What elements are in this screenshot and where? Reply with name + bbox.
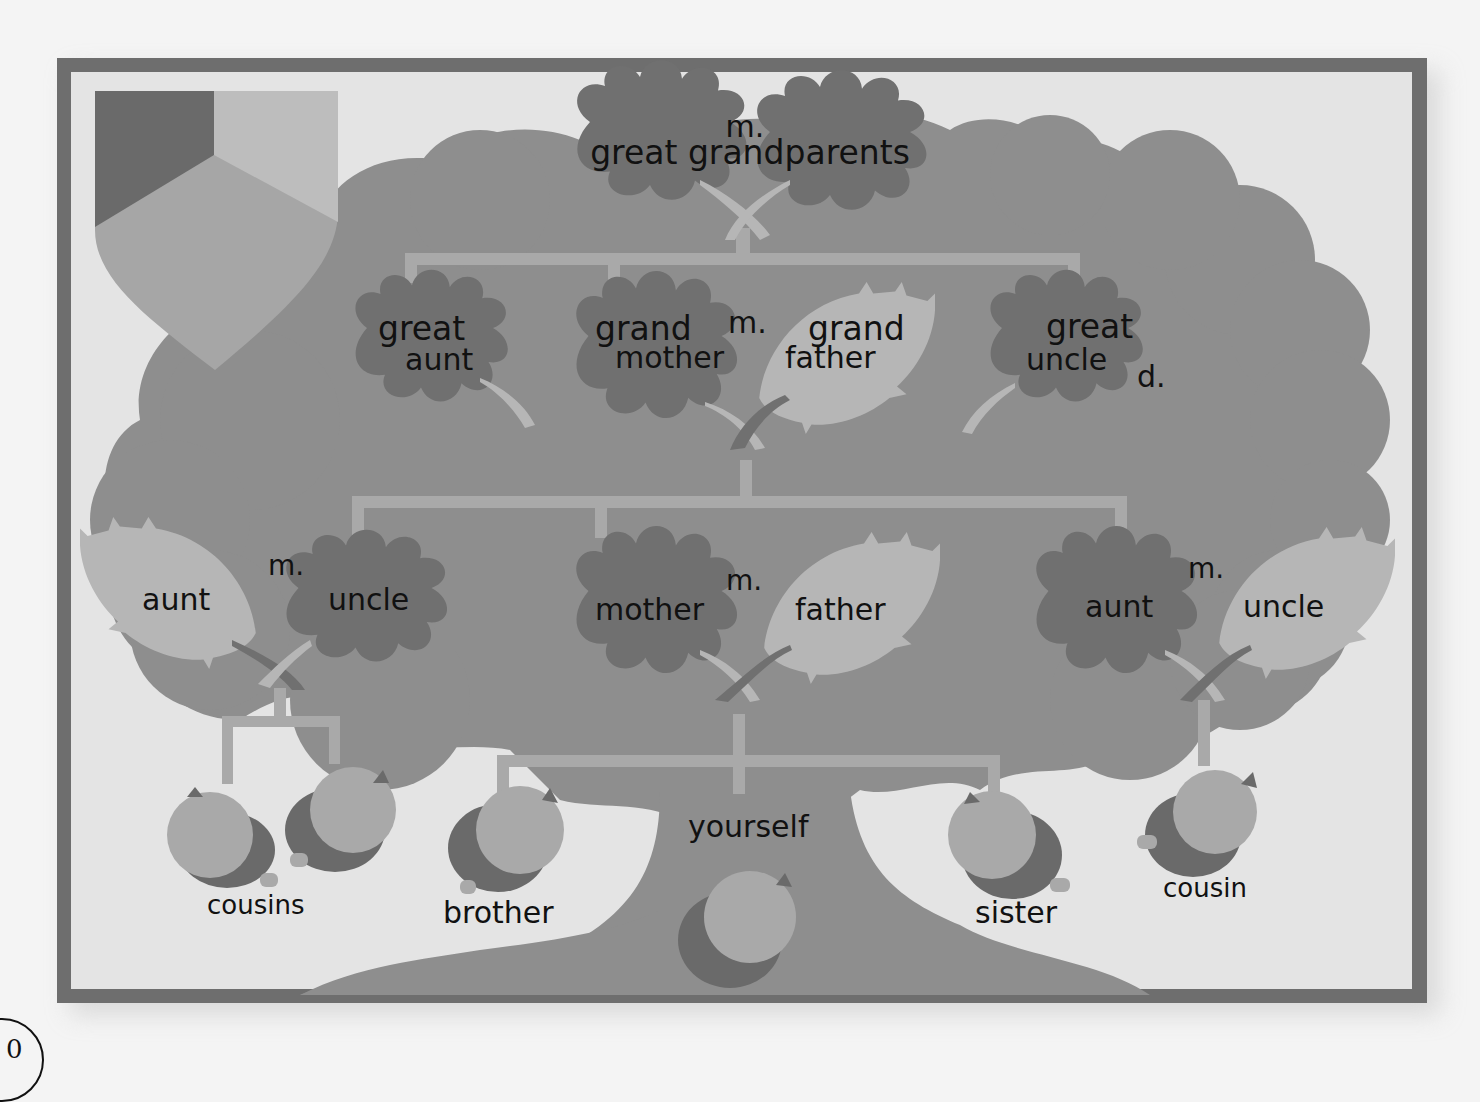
label-mother: mother	[595, 595, 704, 625]
label-great-uncle-line1: great	[1046, 310, 1133, 343]
label-great-uncle-line2: uncle	[1026, 345, 1107, 375]
marriage-marker-grandparents: m.	[728, 308, 767, 338]
label-sister: sister	[975, 898, 1057, 928]
label-yourself: yourself	[688, 812, 808, 842]
label-aunt-left: aunt	[142, 585, 210, 615]
label-father: father	[795, 595, 886, 625]
label-brother: brother	[443, 898, 554, 928]
label-great-aunt-line1: great	[378, 312, 465, 345]
marriage-marker-aunt-uncle-right: m.	[1188, 555, 1224, 583]
label-grandmother-line2: mother	[615, 343, 724, 373]
label-cousin: cousin	[1163, 875, 1247, 901]
label-great-aunt-line2: aunt	[405, 345, 473, 375]
label-uncle-right: uncle	[1243, 592, 1324, 622]
label-uncle-left: uncle	[328, 585, 409, 615]
marriage-marker-aunt-uncle-left: m.	[268, 552, 304, 580]
marriage-marker-parents: m.	[726, 567, 762, 595]
deceased-marker-great-uncle: d.	[1137, 362, 1166, 392]
label-aunt-right: aunt	[1085, 592, 1153, 622]
label-great-grandparents: great grandparents	[590, 136, 910, 169]
label-grandfather-line2: father	[785, 343, 876, 373]
label-cousins: cousins	[207, 892, 304, 918]
